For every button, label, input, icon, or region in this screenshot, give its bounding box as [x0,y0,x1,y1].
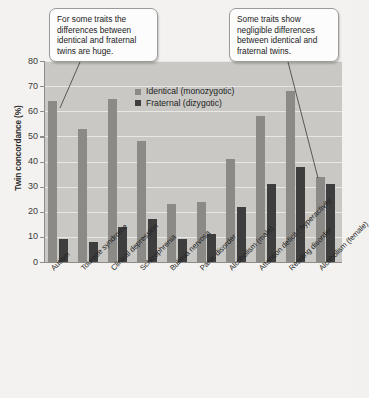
bar [78,129,87,262]
y-tick-label: 60 [12,107,38,116]
y-tick-label: 80 [12,57,38,66]
y-tick-mark [40,237,44,238]
y-tick-mark [40,162,44,163]
y-tick-mark [40,187,44,188]
y-tick-label: 10 [12,232,38,241]
y-tick-label: 0 [12,258,38,267]
gridline [45,111,342,112]
bar [316,177,325,262]
y-axis-line [44,61,45,263]
legend-label-identical: Identical (monozygotic) [146,86,234,98]
legend-swatch-identical-icon [135,89,141,95]
legend-item-fraternal: Fraternal (dizygotic) [135,98,234,110]
y-axis-title: Twin concordance (%) [13,73,23,223]
y-tick-mark [40,136,44,137]
gridline [45,136,342,137]
y-tick-mark [40,61,44,62]
callout-right: Some traits show negligible differences … [229,8,339,62]
y-tick-label: 70 [12,82,38,91]
y-tick-mark [40,212,44,213]
legend-item-identical: Identical (monozygotic) [135,86,234,98]
callout-left: For some traits the differences between … [49,8,158,62]
y-tick-label: 20 [12,207,38,216]
gridline [45,162,342,163]
y-tick-label: 50 [12,132,38,141]
y-tick-mark [40,111,44,112]
y-tick-label: 40 [12,157,38,166]
bar [48,101,57,262]
chart-legend: Identical (monozygotic) Fraternal (dizyg… [135,86,234,109]
legend-swatch-fraternal-icon [135,100,141,106]
y-tick-mark [40,86,44,87]
y-tick-mark [40,262,44,263]
y-tick-label: 30 [12,182,38,191]
legend-label-fraternal: Fraternal (dizygotic) [146,98,222,110]
